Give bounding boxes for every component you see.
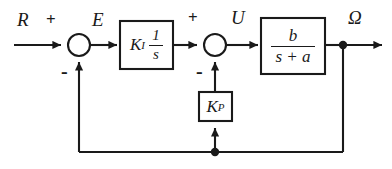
label-control-signal: U [231, 8, 245, 27]
plant-fraction: b s + a [271, 27, 315, 66]
block-diagram-canvas: R + E - + U - Ω KI 1 s b s + a KP [0, 0, 392, 169]
integral-gain-symbol: K [130, 35, 141, 55]
feedback-branch-node [211, 148, 219, 156]
integrator-numerator: 1 [149, 28, 163, 45]
sign-minus-sum1: - [61, 66, 68, 76]
sign-plus-sum2: + [188, 9, 198, 26]
plant-denominator: s + a [272, 47, 313, 66]
integrator-denominator: s [150, 46, 162, 63]
label-error-signal: E [92, 10, 104, 29]
plant-block-content: b s + a [261, 18, 325, 74]
output-takeoff-node [339, 41, 347, 49]
proportional-gain-block-content: KP [199, 92, 232, 121]
label-output-signal: Ω [348, 8, 362, 27]
proportional-gain-symbol: K [206, 97, 217, 117]
integrator-fraction: 1 s [149, 28, 163, 63]
sign-plus-sum1: + [46, 11, 56, 28]
integral-gain-subscript: I [141, 39, 145, 51]
proportional-gain-subscript: P [218, 101, 225, 113]
summing-junction-1 [68, 34, 90, 56]
summing-junction-2 [204, 34, 226, 56]
sign-minus-sum2: - [196, 66, 203, 76]
plant-numerator: b [286, 27, 301, 46]
label-reference-signal: R [17, 10, 29, 29]
integral-gain-block-content: KI 1 s [120, 21, 173, 69]
